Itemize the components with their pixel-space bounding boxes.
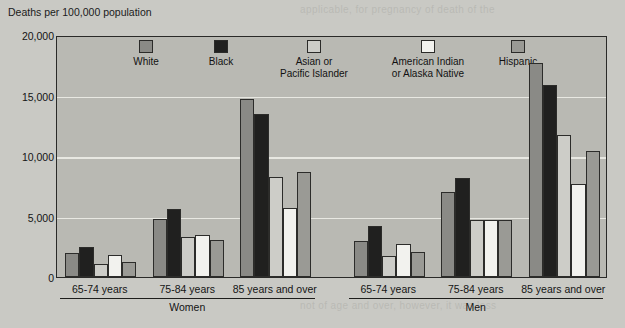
legend-label: Black bbox=[186, 56, 256, 68]
bar bbox=[498, 220, 512, 277]
legend-swatch-icon bbox=[307, 40, 321, 53]
bar bbox=[411, 252, 425, 277]
sex-group-label: Men bbox=[426, 301, 526, 313]
y-tick-label: 20,000 bbox=[2, 30, 54, 42]
legend-label: American Indian or Alaska Native bbox=[376, 56, 480, 79]
bar bbox=[153, 219, 167, 277]
bar bbox=[368, 226, 382, 277]
age-group-label: 85 years and over bbox=[223, 283, 327, 295]
bar bbox=[108, 255, 122, 277]
legend-swatch-icon bbox=[421, 40, 435, 53]
bar bbox=[254, 114, 268, 277]
bar bbox=[240, 99, 254, 277]
bar bbox=[195, 235, 209, 277]
bar bbox=[79, 247, 93, 277]
y-tick-label: 10,000 bbox=[2, 151, 54, 163]
bar-chart: Deaths per 100,000 population 05,00010,0… bbox=[0, 0, 625, 328]
legend-label: Asian or Pacific Islander bbox=[266, 56, 362, 79]
bar bbox=[94, 264, 108, 277]
legend-item: American Indian or Alaska Native bbox=[376, 40, 480, 79]
bar bbox=[441, 192, 455, 277]
bar bbox=[210, 240, 224, 278]
sex-group-label: Women bbox=[137, 301, 237, 313]
legend-item: White bbox=[111, 40, 181, 68]
bar bbox=[283, 208, 297, 277]
bar bbox=[586, 151, 600, 277]
bar bbox=[484, 220, 498, 277]
legend-item: Black bbox=[186, 40, 256, 68]
bar bbox=[65, 253, 79, 277]
bar bbox=[269, 177, 283, 277]
bar bbox=[529, 63, 543, 277]
bar bbox=[181, 237, 195, 277]
bar bbox=[455, 178, 469, 277]
bar bbox=[354, 241, 368, 277]
bar bbox=[470, 220, 484, 277]
bar bbox=[543, 85, 557, 277]
bar bbox=[396, 244, 410, 277]
bar bbox=[297, 172, 311, 277]
sex-group-rule bbox=[60, 298, 315, 299]
legend-item: Asian or Pacific Islander bbox=[266, 40, 362, 79]
legend: WhiteBlackAsian or Pacific IslanderAmeri… bbox=[58, 40, 605, 84]
y-tick-label: 5,000 bbox=[2, 212, 54, 224]
bar bbox=[122, 262, 136, 277]
x-axis-labels: 65-74 years75-84 years85 years and over6… bbox=[0, 280, 625, 328]
bar bbox=[167, 209, 181, 277]
legend-label: White bbox=[111, 56, 181, 68]
y-tick-label: 15,000 bbox=[2, 91, 54, 103]
legend-swatch-icon bbox=[214, 40, 228, 53]
sex-group-rule bbox=[349, 298, 604, 299]
bar bbox=[557, 135, 571, 277]
bar bbox=[382, 256, 396, 277]
bar bbox=[571, 184, 585, 277]
legend-swatch-icon bbox=[511, 40, 525, 53]
legend-swatch-icon bbox=[139, 40, 153, 53]
age-group-label: 85 years and over bbox=[511, 283, 615, 295]
y-axis-ticks: 05,00010,00015,00020,000 bbox=[0, 0, 54, 328]
